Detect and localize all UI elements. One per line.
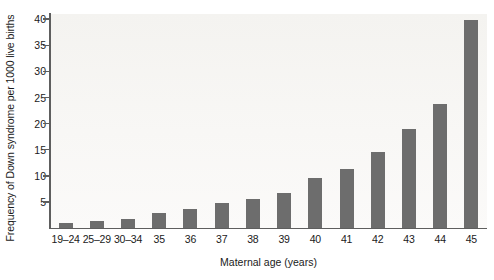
bar [340,169,354,229]
x-axis-tick-label: 38 [237,232,268,246]
x-axis-tick-label: 30–34 [112,232,143,246]
bar [183,209,197,228]
x-axis-tick-label: 25–29 [81,232,112,246]
bar [433,104,447,228]
bar [152,213,166,228]
bar [121,219,135,228]
x-axis-tick-label: 37 [206,232,237,246]
down-syndrome-frequency-bar-chart: Frequency of Down syndrome per 1000 live… [0,0,494,280]
y-axis-tick-mark [43,123,50,125]
bar-series [50,14,487,228]
x-axis-title: Maternal age (years) [50,256,487,268]
x-axis-tick-label: 43 [393,232,424,246]
y-axis-tick-mark [43,201,50,203]
y-axis-tick-mark [43,149,50,151]
bar [90,221,104,228]
bar [215,203,229,228]
bar [402,129,416,228]
y-axis-tick-labels: 510152025303540 [22,0,46,280]
bar [308,178,322,228]
x-axis-tick-label: 35 [144,232,175,246]
x-axis-tick-label: 36 [175,232,206,246]
y-axis-tick-mark [43,97,50,99]
bar [277,193,291,228]
x-axis-tick-label: 41 [331,232,362,246]
bar [246,199,260,228]
x-axis-tick-labels: 19–2425–2930–343536373839404142434445 [50,232,487,248]
x-axis-tick-label: 40 [300,232,331,246]
x-axis-tick-label: 44 [425,232,456,246]
bar [464,20,478,228]
x-axis-tick-label: 19–24 [50,232,81,246]
bar [371,152,385,228]
y-axis-tick-mark [43,175,50,177]
y-axis-tick-mark [43,45,50,47]
y-axis-tick-mark [43,18,50,20]
bar [59,223,73,228]
y-axis-title: Frequency of Down syndrome per 1000 live… [2,14,18,242]
x-axis-tick-label: 39 [269,232,300,246]
x-axis-tick-label: 42 [362,232,393,246]
y-axis-tick-mark [43,71,50,73]
x-axis-tick-label: 45 [456,232,487,246]
